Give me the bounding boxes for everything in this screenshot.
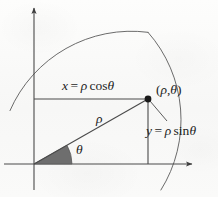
y-theta-glyph: θ: [189, 123, 196, 138]
x-component-label: x=ρcosθ: [62, 79, 114, 93]
plotted-point: [145, 96, 152, 103]
x-theta-glyph: θ: [108, 78, 115, 93]
radius-label: ρ: [96, 112, 102, 126]
x-variable-glyph: x: [62, 78, 68, 93]
y-component-label: y=ρsinθ: [146, 124, 196, 138]
y-equals-glyph: =: [155, 123, 163, 138]
leader-line: [150, 101, 167, 121]
paren-close-glyph: ): [177, 82, 182, 97]
x-equals-glyph: =: [71, 78, 79, 93]
y-sin-glyph: sin: [174, 123, 190, 138]
y-variable-glyph: y: [146, 123, 152, 138]
circle-arc-lower: [148, 32, 181, 190]
point-coordinates-label: (ρ,θ): [156, 83, 182, 97]
polar-diagram-svg: [0, 0, 218, 197]
polar-coordinates-figure: x=ρcosθ y=ρsinθ (ρ,θ) ρ θ: [0, 0, 218, 197]
x-rho-glyph: ρ: [81, 78, 87, 93]
x-cos-glyph: cos: [90, 78, 108, 93]
y-rho-glyph: ρ: [165, 123, 171, 138]
point-theta-glyph: θ: [170, 82, 177, 97]
angle-label: θ: [76, 143, 83, 157]
radius-line: [34, 99, 148, 164]
